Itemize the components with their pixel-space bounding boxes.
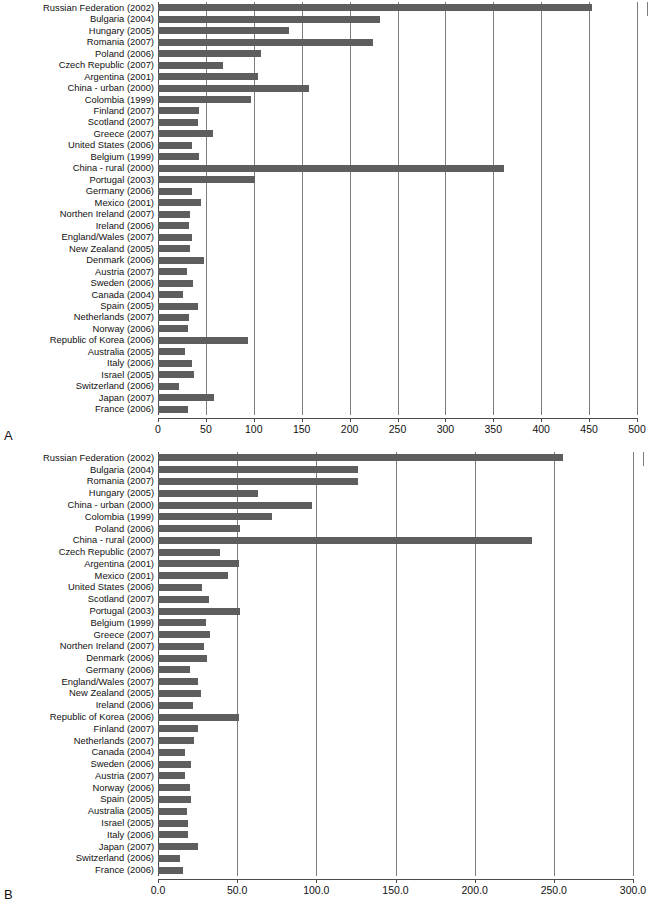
category-label: Poland (2006) (0, 524, 154, 534)
plot-area-a (158, 2, 637, 415)
bar (158, 325, 188, 332)
bar (158, 808, 187, 815)
bar (158, 549, 220, 556)
bar (158, 314, 189, 321)
category-label: Austria (2007) (0, 771, 154, 781)
bar (158, 165, 504, 172)
category-label: Switzerland (2006) (0, 381, 154, 391)
bar (158, 596, 209, 603)
category-label: Norway (2006) (0, 324, 154, 334)
bar (158, 631, 210, 638)
bar (158, 257, 204, 264)
category-label: Austria (2007) (0, 267, 154, 277)
category-label: Japan (2007) (0, 842, 154, 852)
x-tick-300.0 (633, 879, 634, 883)
bar (158, 107, 199, 114)
category-label: Mexico (2001) (0, 571, 154, 581)
bar (158, 478, 358, 485)
bar (158, 234, 192, 241)
bar (158, 337, 248, 344)
category-label: Hungary (2005) (0, 26, 154, 36)
category-label: Spain (2005) (0, 301, 154, 311)
bar (158, 371, 194, 378)
category-label: Republic of Korea (2006) (0, 335, 154, 345)
bar (158, 50, 261, 57)
bar (158, 199, 201, 206)
bar (158, 394, 214, 401)
panel-a-letter: A (4, 428, 13, 443)
category-label: Greece (2007) (0, 129, 154, 139)
category-label: Argentina (2001) (0, 72, 154, 82)
bar (158, 678, 198, 685)
bar (158, 572, 228, 579)
category-label: Canada (2004) (0, 747, 154, 757)
bar (158, 176, 255, 183)
category-label: Netherlands (2007) (0, 312, 154, 322)
bar (158, 268, 187, 275)
category-label: Switzerland (2006) (0, 853, 154, 863)
category-label: China - urban (2000) (0, 83, 154, 93)
bar (158, 119, 198, 126)
x-tick-label-50.0: 50.0 (207, 885, 267, 896)
bar (158, 867, 183, 874)
bar (158, 454, 563, 461)
bar (158, 831, 188, 838)
bar (158, 16, 380, 23)
category-label: New Zealand (2005) (0, 244, 154, 254)
bar (158, 608, 240, 615)
category-label: China - rural (2000) (0, 535, 154, 545)
frame-edge-mark (643, 452, 644, 466)
category-label: Northen Ireland (2007) (0, 209, 154, 219)
bar (158, 560, 239, 567)
category-label: Romania (2007) (0, 37, 154, 47)
bar (158, 85, 309, 92)
bar (158, 142, 192, 149)
category-label: Russian Federation (2002) (0, 3, 154, 13)
category-label: Denmark (2006) (0, 653, 154, 663)
category-label: Sweden (2006) (0, 759, 154, 769)
frame-edge-mark (647, 2, 648, 16)
category-label: Czech Republic (2007) (0, 60, 154, 70)
category-label: Netherlands (2007) (0, 736, 154, 746)
bar (158, 130, 213, 137)
category-label: Colombia (1999) (0, 95, 154, 105)
bar (158, 245, 190, 252)
category-label: Ireland (2006) (0, 221, 154, 231)
bar (158, 655, 207, 662)
bar (158, 796, 191, 803)
category-label: Norway (2006) (0, 783, 154, 793)
bar (158, 4, 592, 11)
bar (158, 643, 204, 650)
category-label: Greece (2007) (0, 630, 154, 640)
bar (158, 211, 190, 218)
category-label: China - rural (2000) (0, 163, 154, 173)
category-label: Japan (2007) (0, 393, 154, 403)
x-tick-label-100.0: 100.0 (286, 885, 346, 896)
category-label: Mexico (2001) (0, 198, 154, 208)
x-axis-b (158, 879, 633, 880)
gridline-200.0 (475, 452, 476, 876)
gridline-250 (398, 2, 399, 415)
bar (158, 153, 199, 160)
figure-root: A 050100150200250300350400450500Russian … (0, 0, 652, 907)
bar (158, 749, 185, 756)
category-label: Australia (2005) (0, 347, 154, 357)
category-label: Italy (2006) (0, 830, 154, 840)
category-label: China - urban (2000) (0, 500, 154, 510)
category-label: Bulgaria (2004) (0, 465, 154, 475)
category-label: England/Wales (2007) (0, 677, 154, 687)
category-label: Romania (2007) (0, 476, 154, 486)
bar (158, 513, 272, 520)
x-tick-label-250.0: 250.0 (524, 885, 584, 896)
bar (158, 666, 190, 673)
gridline-450 (589, 2, 590, 415)
category-label: Hungary (2005) (0, 488, 154, 498)
x-tick-label-0.0: 0.0 (128, 885, 188, 896)
bar (158, 761, 191, 768)
category-label: Canada (2004) (0, 290, 154, 300)
bar (158, 27, 289, 34)
bar (158, 348, 185, 355)
category-label: France (2006) (0, 865, 154, 875)
category-label: Finland (2007) (0, 724, 154, 734)
bar (158, 502, 312, 509)
